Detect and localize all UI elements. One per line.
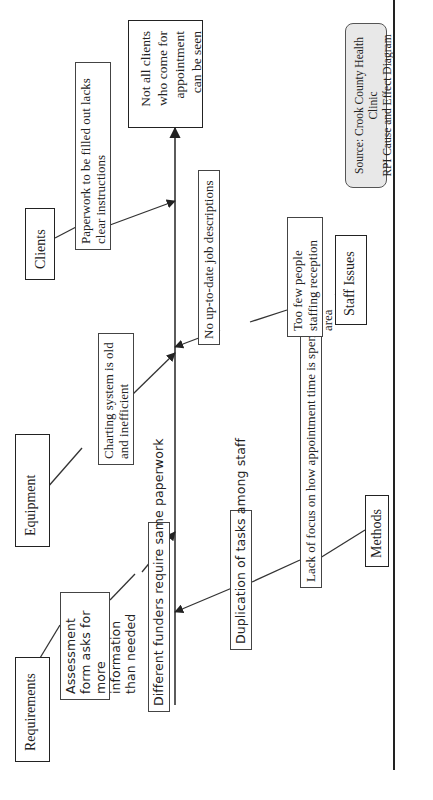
effect-box: Not all clients who come for appointment… [128, 20, 203, 128]
source-note: Source: Crook County Health Clinic RPI C… [345, 23, 387, 188]
cause-too-few-people: Too few people staffing reception area [287, 217, 323, 337]
cause-paperwork-instructions: Paperwork to be filled out lacks clear i… [75, 62, 111, 250]
cause-assessment-form: Assessment form asks for more informatio… [60, 592, 110, 700]
category-methods: Methods [365, 495, 389, 567]
category-label: Clients [33, 229, 48, 269]
category-staff-issues: Staff Issues [335, 235, 367, 325]
bottom-rule [393, 0, 395, 770]
category-equipment: Equipment [15, 434, 50, 547]
category-label: Requirements [23, 673, 38, 751]
fishbone-diagram: Requirements Assessment form asks for mo… [0, 0, 433, 800]
cause-lack-of-focus: Lack of focus on how appointment time is… [300, 333, 322, 588]
category-label: Staff Issues [342, 251, 357, 316]
cause-no-job-descriptions: No up-to-date job descriptions [198, 170, 220, 345]
category-label: Methods [369, 509, 384, 558]
cause-duplication-of-tasks: Duplication of tasks among staff [230, 510, 252, 650]
category-requirements: Requirements [15, 657, 50, 762]
cause-charting-system: Charting system is old and inefficient [98, 333, 134, 465]
category-label: Equipment [23, 475, 38, 536]
cause-different-funders: Different funders require same paperwork [148, 522, 170, 712]
category-clients: Clients [25, 208, 55, 280]
